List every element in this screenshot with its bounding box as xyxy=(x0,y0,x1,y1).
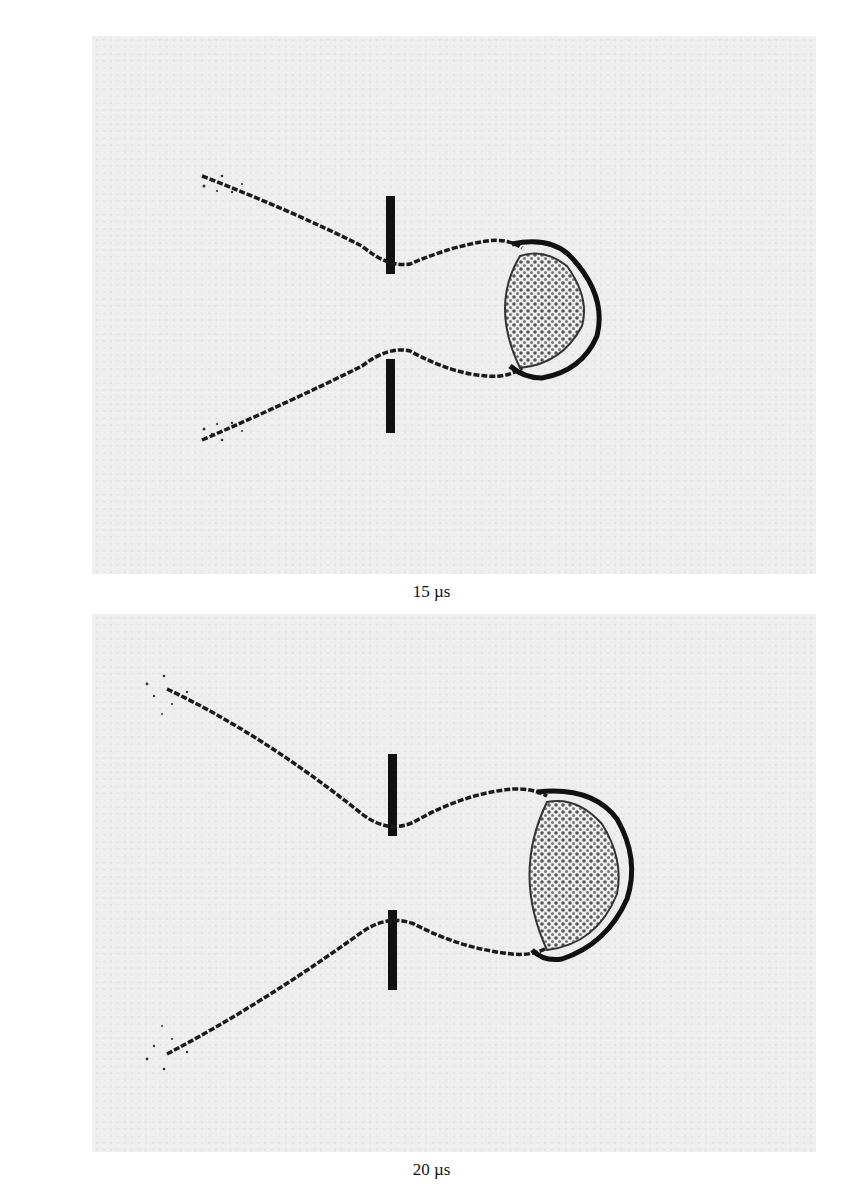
lower-wall-barrier xyxy=(386,359,395,433)
simulation-panel-15us xyxy=(92,36,816,574)
particle-simulation-plot xyxy=(92,614,816,1152)
particle-simulation-plot xyxy=(92,36,816,574)
caption-15us: 15 µs xyxy=(0,582,863,602)
dense-particle-region xyxy=(505,254,584,368)
dense-particle-region xyxy=(530,801,619,950)
simulation-panel-20us xyxy=(92,614,816,1152)
lower-jet-sheet xyxy=(167,920,547,1054)
upper-jet-sheet xyxy=(202,176,522,265)
scattered-droplets xyxy=(146,675,189,1071)
scattered-droplets xyxy=(203,175,244,442)
upper-wall-barrier xyxy=(388,754,397,836)
caption-20us: 20 µs xyxy=(0,1160,863,1180)
lower-jet-sheet xyxy=(202,350,522,440)
upper-jet-sheet xyxy=(167,689,547,827)
